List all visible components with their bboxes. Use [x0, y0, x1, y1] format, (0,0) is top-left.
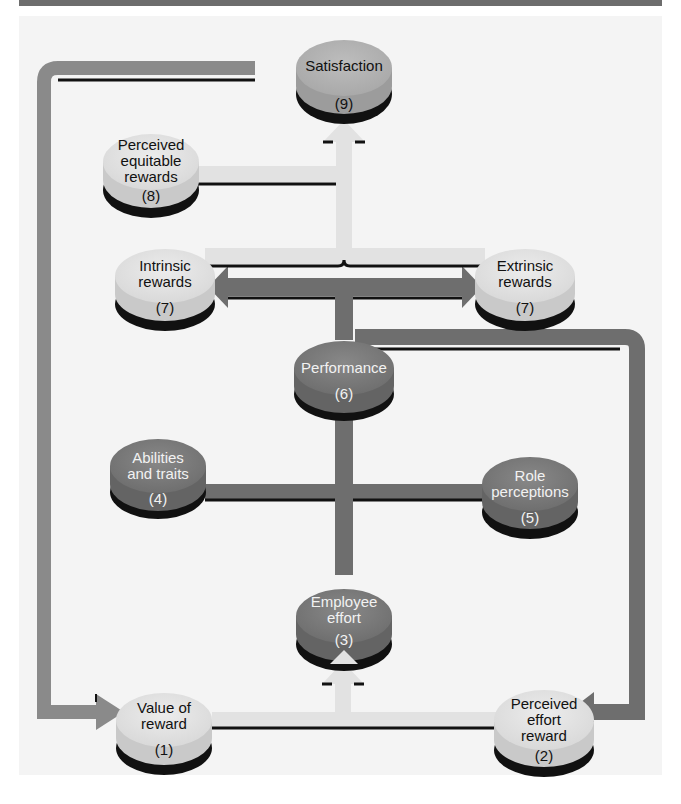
node-label: Extrinsic: [470, 258, 580, 274]
node-label: perceptions: [475, 484, 585, 500]
node-employee-effort: Employee effort (3): [289, 598, 399, 668]
node-abilities-and-traits: Abilities and traits (4): [103, 462, 213, 532]
node-label: Satisfaction: [284, 58, 404, 74]
node-label: and traits: [103, 466, 213, 482]
node-label: effort: [489, 712, 599, 728]
node-number: (2): [489, 748, 599, 764]
node-label: reward: [489, 728, 599, 744]
node-label: Abilities: [103, 450, 213, 466]
node-number: (9): [284, 96, 404, 112]
node-label: Performance: [289, 360, 399, 376]
node-label: equitable: [96, 153, 206, 169]
node-perceived-effort-reward: Perceived effort reward (2): [489, 696, 599, 776]
node-number: (7): [470, 300, 580, 316]
node-number: (3): [289, 632, 399, 648]
arrow-rewards-to-satisfaction: [205, 120, 485, 266]
node-number: (4): [103, 491, 213, 507]
node-number: (5): [475, 510, 585, 526]
node-label: rewards: [470, 274, 580, 290]
node-label: Perceived: [489, 696, 599, 712]
node-perceived-equitable-rewards: Perceived equitable rewards (8): [96, 137, 206, 217]
node-satisfaction: Satisfaction (9): [284, 50, 404, 120]
node-role-perceptions: Role perceptions (5): [475, 480, 585, 550]
node-label: Role: [475, 468, 585, 484]
arrow-inputs-to-effort: [212, 662, 512, 728]
node-number: (8): [96, 188, 206, 204]
node-value-of-reward: Value of reward (1): [109, 700, 219, 770]
node-number: (1): [109, 742, 219, 758]
arrow-abilities-role-to-effort-line: [205, 484, 485, 500]
node-label: rewards: [96, 169, 206, 185]
node-label: rewards: [110, 274, 220, 290]
node-label: effort: [289, 610, 399, 626]
node-extrinsic-rewards: Extrinsic rewards (7): [470, 258, 580, 328]
arrow-equitable-to-satisfaction-line: [195, 166, 339, 184]
arrow-performance-to-rewards: [208, 266, 482, 340]
node-number: (7): [110, 300, 220, 316]
node-number: (6): [289, 386, 399, 402]
node-label: Perceived: [96, 137, 206, 153]
node-label: reward: [109, 716, 219, 732]
node-label: Value of: [109, 700, 219, 716]
node-performance: Performance (6): [289, 372, 399, 432]
node-intrinsic-rewards: Intrinsic rewards (7): [110, 258, 220, 328]
node-label: Intrinsic: [110, 258, 220, 274]
node-label: Employee: [289, 594, 399, 610]
